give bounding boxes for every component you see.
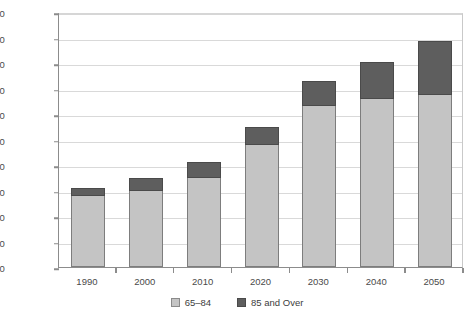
- y-axis-tick-mark: [54, 192, 59, 194]
- x-axis-tick-mark: [462, 268, 464, 273]
- bar-group[interactable]: [129, 178, 163, 267]
- bar-segment-65-84[interactable]: [129, 191, 163, 268]
- stacked-bar-chart: 1990200020102020203020402050 65–8485 and…: [0, 0, 474, 321]
- x-axis-tick-mark: [231, 268, 233, 273]
- y-axis-tick-mark: [54, 90, 59, 92]
- y-axis-tick-label: 90,000: [0, 33, 5, 44]
- bar-segment-85-and-over[interactable]: [129, 178, 163, 191]
- y-axis-tick-label: 20,000: [0, 212, 5, 223]
- bar-segment-65-84[interactable]: [302, 106, 336, 267]
- y-axis-tick-mark: [54, 166, 59, 168]
- bar-segment-85-and-over[interactable]: [418, 41, 452, 95]
- gridline: [59, 65, 462, 66]
- y-axis-tick-label: 70,000: [0, 84, 5, 95]
- y-axis-tick-label: 10,000: [0, 237, 5, 248]
- chart-legend: 65–8485 and Over: [0, 297, 474, 308]
- y-axis-tick-mark: [54, 13, 59, 15]
- x-axis-tick-mark: [404, 268, 406, 273]
- legend-swatch-icon: [237, 298, 246, 307]
- x-axis-tick-mark: [289, 268, 291, 273]
- y-axis-tick-mark: [54, 243, 59, 245]
- bar-segment-65-84[interactable]: [360, 99, 394, 267]
- legend-entry[interactable]: 85 and Over: [237, 297, 303, 308]
- bar-group[interactable]: [187, 162, 221, 267]
- y-axis-tick-label: 100,000: [0, 8, 5, 19]
- x-axis-tick-mark: [173, 268, 175, 273]
- y-axis-tick-label: 0: [0, 263, 5, 274]
- y-axis-tick-mark: [54, 268, 59, 270]
- y-axis-tick-mark: [54, 217, 59, 219]
- bar-group[interactable]: [71, 188, 105, 267]
- y-axis-tick-label: 60,000: [0, 110, 5, 121]
- bar-segment-85-and-over[interactable]: [302, 81, 336, 107]
- gridline: [59, 91, 462, 92]
- y-axis-tick-mark: [54, 141, 59, 143]
- bar-segment-65-84[interactable]: [71, 196, 105, 267]
- y-axis-tick-mark: [54, 64, 59, 66]
- bar-segment-65-84[interactable]: [187, 178, 221, 267]
- legend-entry[interactable]: 65–84: [171, 297, 211, 308]
- bar-segment-65-84[interactable]: [245, 145, 279, 267]
- bar-group[interactable]: [245, 127, 279, 267]
- y-axis-tick-label: 80,000: [0, 59, 5, 70]
- bar-group[interactable]: [302, 81, 336, 267]
- y-axis-tick-mark: [54, 39, 59, 41]
- bar-segment-65-84[interactable]: [418, 95, 452, 267]
- bar-group[interactable]: [418, 41, 452, 267]
- bar-segment-85-and-over[interactable]: [360, 62, 394, 99]
- bar-segment-85-and-over[interactable]: [71, 188, 105, 196]
- bar-segment-85-and-over[interactable]: [187, 162, 221, 177]
- x-axis-tick-mark: [115, 268, 117, 273]
- gridline: [59, 14, 462, 15]
- x-axis-tick-label: 2050: [399, 276, 469, 287]
- y-axis-tick-label: 50,000: [0, 135, 5, 146]
- x-axis-tick-mark: [347, 268, 349, 273]
- gridline: [59, 40, 462, 41]
- legend-swatch-icon: [171, 298, 180, 307]
- plot-area: [58, 13, 463, 268]
- gridline: [59, 116, 462, 117]
- legend-label: 65–84: [185, 297, 211, 308]
- y-axis-tick-label: 30,000: [0, 186, 5, 197]
- y-axis-tick-mark: [54, 115, 59, 117]
- legend-label: 85 and Over: [251, 297, 303, 308]
- y-axis-tick-label: 40,000: [0, 161, 5, 172]
- bar-segment-85-and-over[interactable]: [245, 127, 279, 145]
- bar-group[interactable]: [360, 62, 394, 267]
